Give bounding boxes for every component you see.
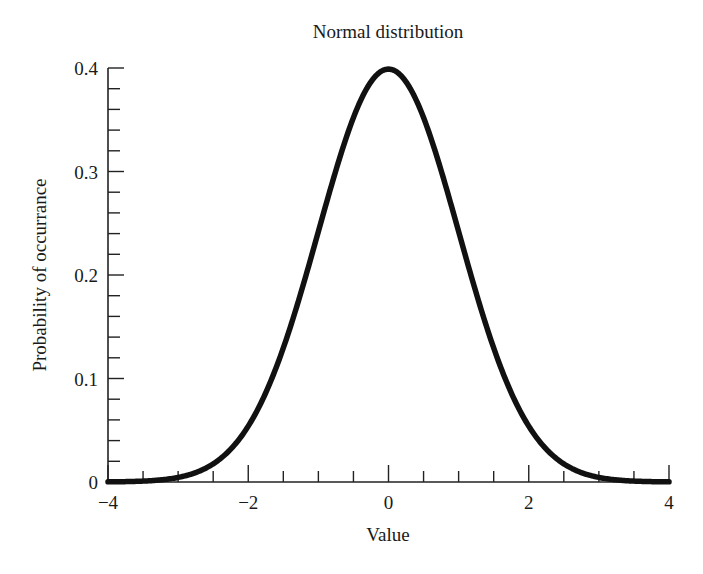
pdf-curve: [108, 69, 669, 482]
y-tick-label: 0.3: [74, 162, 98, 183]
y-tick-label: 0.4: [74, 58, 98, 79]
x-tick-label: −2: [238, 492, 258, 513]
x-axis-label: Value: [366, 524, 409, 545]
x-tick-label: 4: [664, 492, 674, 513]
x-tick-label: 0: [384, 492, 394, 513]
x-tick-label: −4: [98, 492, 119, 513]
normal-distribution-chart: Normal distribution 00.10.20.30.4 −4−202…: [0, 0, 703, 574]
y-axis-label: Probability of occurrance: [29, 178, 50, 371]
y-tick-label: 0.1: [74, 369, 98, 390]
chart-title: Normal distribution: [313, 21, 464, 42]
x-tick-label: 2: [524, 492, 534, 513]
y-tick-label: 0.2: [74, 265, 98, 286]
y-tick-label: 0: [89, 472, 99, 493]
y-axis: 00.10.20.30.4: [74, 58, 124, 493]
